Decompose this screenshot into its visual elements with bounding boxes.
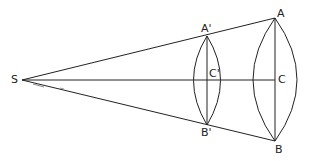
label-c: C: [278, 74, 286, 85]
label-b-prime: B': [201, 127, 212, 138]
label-s: S: [11, 74, 18, 85]
ray-s-to-a: [22, 18, 275, 80]
label-a: A: [277, 8, 285, 19]
label-b: B: [275, 144, 283, 155]
label-a-prime: A': [201, 23, 212, 34]
label-c-prime: C': [209, 68, 220, 79]
ray-s-to-b: [22, 80, 275, 141]
cone-diagram: [0, 0, 313, 161]
